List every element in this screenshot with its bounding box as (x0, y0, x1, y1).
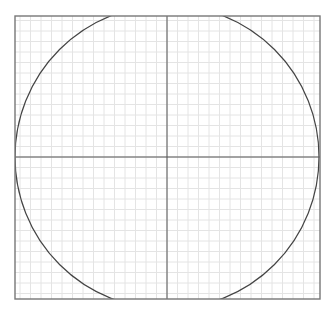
circle-grid-diagram (0, 0, 334, 314)
